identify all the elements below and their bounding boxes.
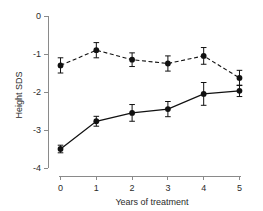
chart-container: 0-1-2-3-4 012345 Height SDS Years of tre… [0, 0, 263, 211]
data-point-marker [93, 118, 99, 124]
x-tick-label: 5 [237, 183, 242, 193]
x-tick-label: 3 [165, 183, 170, 193]
data-point-marker [58, 63, 64, 69]
data-point-marker [129, 57, 135, 63]
x-tick-label: 1 [94, 183, 99, 193]
data-point-marker [237, 75, 243, 81]
height-sds-line-chart: 0-1-2-3-4 012345 Height SDS Years of tre… [0, 0, 263, 211]
series-path [61, 50, 240, 78]
y-tick-label: 0 [36, 11, 41, 21]
y-tick-label: -4 [33, 163, 41, 173]
y-tick-label: -1 [33, 49, 41, 59]
data-point-marker [129, 110, 135, 116]
y-tick-label: -3 [33, 125, 41, 135]
data-point-marker [58, 146, 64, 152]
data-point-marker [93, 47, 99, 53]
data-point-marker [165, 61, 171, 67]
x-axis: 012345 [58, 176, 242, 193]
data-point-marker [201, 91, 207, 97]
y-tick-label: -2 [33, 87, 41, 97]
data-point-marker [237, 88, 243, 94]
y-axis-title: Height SDS [14, 71, 24, 118]
series-lower-solid-series [58, 83, 243, 153]
x-tick-label: 4 [201, 183, 206, 193]
x-axis-title: Years of treatment [115, 197, 189, 207]
x-tick-label: 2 [130, 183, 135, 193]
x-tick-label: 0 [58, 183, 63, 193]
y-axis: 0-1-2-3-4 [33, 11, 48, 173]
series-upper-dashed-series [58, 43, 243, 86]
series-path [61, 91, 240, 149]
data-point-marker [201, 53, 207, 59]
data-point-marker [165, 106, 171, 112]
data-series-group [58, 43, 243, 153]
